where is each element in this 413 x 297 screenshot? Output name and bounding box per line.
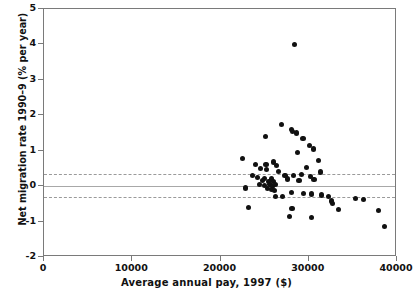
data-point: [280, 194, 285, 199]
data-point: [243, 185, 248, 190]
y-tick-label: 3: [12, 74, 36, 84]
zero-line: [44, 186, 395, 187]
data-point: [246, 205, 251, 210]
data-point: [240, 156, 245, 161]
data-point: [311, 146, 316, 151]
data-point: [263, 134, 268, 139]
data-point: [300, 136, 305, 141]
x-tick-mark: [220, 256, 221, 261]
data-point: [353, 196, 358, 201]
x-axis-label: Average annual pay, 1997 ($): [0, 277, 413, 288]
data-point: [274, 163, 279, 168]
plot-area: [43, 8, 396, 256]
data-point: [289, 190, 294, 195]
x-tick-mark: [43, 256, 44, 261]
data-point: [296, 178, 301, 183]
x-tick-mark: [308, 256, 309, 261]
data-point: [309, 191, 314, 196]
y-tick-label: -1: [12, 216, 36, 226]
data-point: [376, 208, 381, 213]
data-point: [292, 42, 297, 47]
upper-confidence-band: [44, 174, 395, 175]
scatter-plot-figure: Net migration rate 1990–9 (% per year) -…: [0, 0, 413, 297]
data-point: [272, 188, 277, 193]
data-point: [304, 165, 309, 170]
data-point: [318, 169, 323, 174]
lower-confidence-band: [44, 197, 395, 198]
data-point: [273, 194, 278, 199]
data-point: [294, 130, 299, 135]
x-tick-label: 20000: [190, 263, 250, 273]
x-tick-label: 0: [13, 263, 73, 273]
data-point: [279, 122, 284, 127]
data-point: [301, 191, 306, 196]
y-tick-label: 2: [12, 109, 36, 119]
data-point: [309, 215, 314, 220]
data-point: [336, 207, 341, 212]
y-tick-label: 1: [12, 145, 36, 155]
y-axis-label: Net migration rate 1990–9 (% per year): [17, 26, 28, 226]
y-tick-label: -2: [12, 251, 36, 261]
data-point: [291, 173, 296, 178]
data-point: [311, 177, 316, 182]
y-tick-label: 5: [12, 3, 36, 13]
data-point: [287, 214, 292, 219]
data-point: [273, 182, 278, 187]
data-point: [258, 166, 263, 171]
x-tick-mark: [131, 256, 132, 261]
data-point: [316, 158, 321, 163]
data-point: [289, 206, 294, 211]
data-point: [319, 192, 324, 197]
x-tick-label: 10000: [101, 263, 161, 273]
x-tick-mark: [396, 256, 397, 261]
data-point: [299, 172, 304, 177]
y-tick-label: 0: [12, 180, 36, 190]
data-point: [276, 169, 281, 174]
data-point: [382, 224, 387, 229]
x-tick-label: 40000: [366, 263, 413, 273]
data-point: [264, 167, 269, 172]
y-tick-label: 4: [12, 38, 36, 48]
x-tick-label: 30000: [278, 263, 338, 273]
data-point: [330, 201, 335, 206]
data-point: [361, 197, 366, 202]
data-point: [285, 176, 290, 181]
data-point: [295, 150, 300, 155]
